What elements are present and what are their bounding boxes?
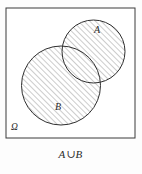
set-b-label: B	[55, 101, 61, 112]
universe-label: Ω	[11, 122, 18, 132]
venn-diagram-figure: A B Ω A∪B	[0, 0, 142, 174]
caption-right-set: B	[76, 148, 84, 160]
figure-caption: A∪B	[0, 148, 142, 161]
set-a-label: A	[93, 24, 101, 35]
caption-union-operator: ∪	[66, 148, 75, 160]
